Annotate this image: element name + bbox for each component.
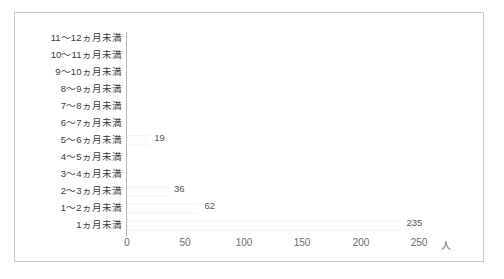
category-label: 1～2ヵ月未満 [15,202,122,214]
category-label: 1ヵ月未満 [15,219,122,231]
category-label: 8～9ヵ月未満 [15,83,122,95]
bar-value-label: 235 [406,217,422,229]
x-axis-unit-label: 人 [441,237,451,252]
category-label: 6～7ヵ月未満 [15,117,122,129]
bar-value-label: 19 [154,132,165,144]
category-label: 7～8ヵ月未満 [15,100,122,112]
bar [127,186,169,197]
category-label: 2～3ヵ月未満 [15,185,122,197]
category-label: 11～12ヵ月未満 [15,32,122,44]
x-tick-label: 0 [124,237,130,248]
bars-layer: 19 36 62 235 [127,32,483,237]
category-label: 9～10ヵ月未満 [15,66,122,78]
x-tick-label: 100 [236,237,253,248]
x-tick-label: 200 [353,237,370,248]
bar-value-label: 36 [174,183,185,195]
bar [127,220,401,231]
x-tick-label: 150 [294,237,311,248]
x-tick-label: 50 [179,237,190,248]
chart-frame: 11～12ヵ月未満 10～11ヵ月未満 9～10ヵ月未満 8～9ヵ月未満 7～8… [14,12,484,262]
bar [127,135,149,146]
x-axis: 0 50 100 150 200 250 人 [15,237,483,259]
category-label: 4～5ヵ月未満 [15,151,122,163]
category-label: 10～11ヵ月未満 [15,49,122,61]
category-axis-labels: 11～12ヵ月未満 10～11ヵ月未満 9～10ヵ月未満 8～9ヵ月未満 7～8… [15,32,122,237]
plot-area: 11～12ヵ月未満 10～11ヵ月未満 9～10ヵ月未満 8～9ヵ月未満 7～8… [15,13,483,261]
category-label: 3～4ヵ月未満 [15,168,122,180]
category-label: 5～6ヵ月未満 [15,134,122,146]
x-tick-label: 250 [411,237,428,248]
bar [127,203,199,214]
bar-value-label: 62 [204,200,215,212]
